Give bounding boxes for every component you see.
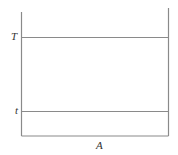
lower-line-label: t [15,105,18,116]
bottom-axis-label: A [96,140,103,151]
upper-line-label: T [11,31,17,42]
diagram: T t A [0,0,178,155]
diagram-lines [0,0,178,155]
